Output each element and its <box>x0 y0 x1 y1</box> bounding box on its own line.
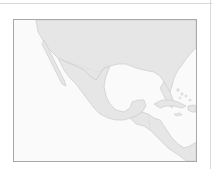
top-divider <box>0 3 212 4</box>
page <box>0 0 212 169</box>
map-canvas[interactable] <box>14 20 196 161</box>
map-frame[interactable] <box>13 19 197 162</box>
landmass-hispaniola <box>188 105 196 112</box>
right-divider <box>210 0 211 169</box>
